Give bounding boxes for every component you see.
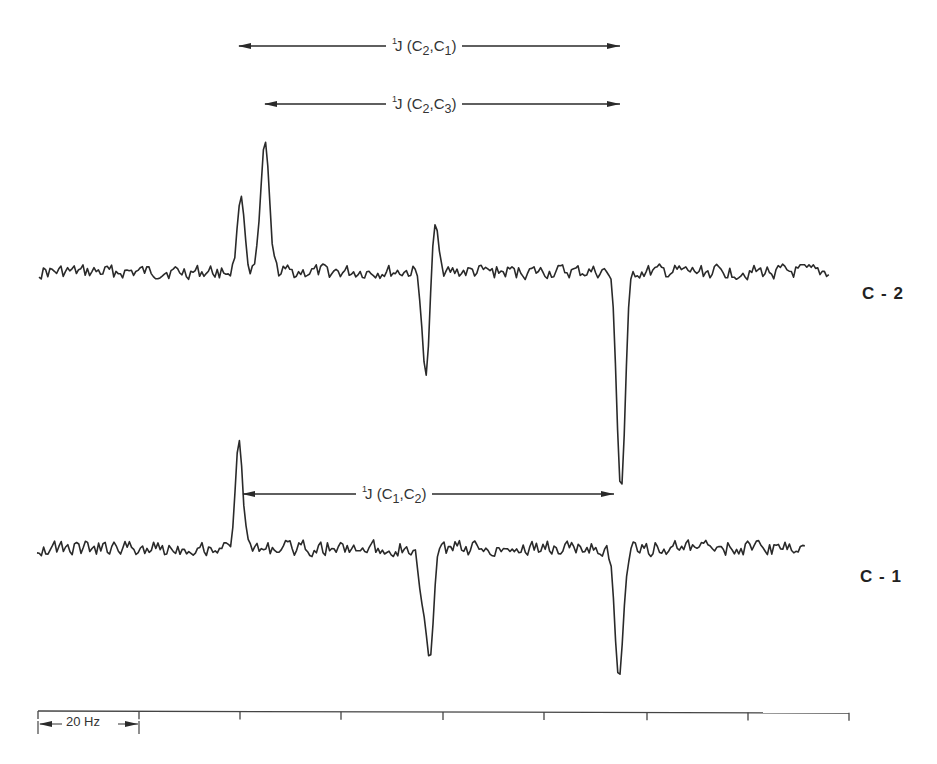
spectrum-plot [0,0,937,764]
label-text: J (C [395,95,423,112]
coupling-label-c1-c2: 1J (C1,C2) [356,484,432,506]
spectrum-trace-c2 [39,142,829,484]
trace-label-c1: C - 1 [860,567,902,587]
label-text: ) [451,37,456,54]
label-text: ) [421,485,426,502]
label-text: J (C [365,485,393,502]
label-text: ) [451,95,456,112]
label-text: ,C [429,37,444,54]
coupling-label-c2-c1: 1J (C2,C1) [386,36,462,58]
coupling-label-c2-c3: 1J (C2,C3) [386,94,462,116]
label-text: J (C [395,37,423,54]
spectrum-trace-c1 [37,441,805,675]
scale-bar-label: 20 Hz [64,714,102,729]
nmr-spectrum-figure: 1J (C2,C1) 1J (C2,C3) 1J (C1,C2) C - 2 C… [0,0,937,764]
frequency-axis [38,711,849,734]
trace-label-c2: C - 2 [862,284,904,304]
label-text: ,C [399,485,414,502]
label-text: ,C [429,95,444,112]
